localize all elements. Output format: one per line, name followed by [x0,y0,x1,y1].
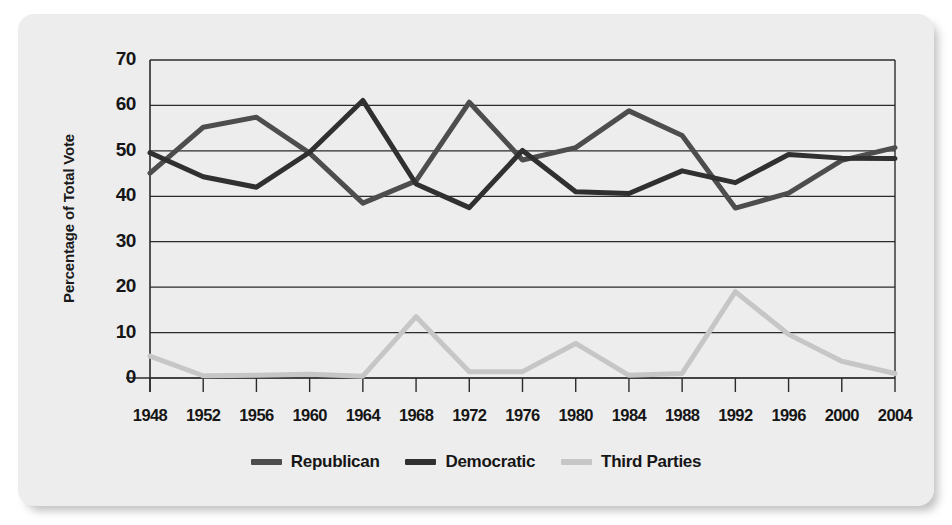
line-chart-svg [18,14,934,506]
y-tick-label-0: 0 [90,366,136,388]
legend-label: Third Parties [601,452,701,472]
x-tick-label-1960: 1960 [280,406,340,425]
legend-item-third-parties[interactable]: Third Parties [561,452,701,472]
axis-lines [126,60,895,392]
legend-label: Republican [291,452,380,472]
y-tick-label-70: 70 [90,48,136,70]
y-tick-label-10: 10 [90,321,136,343]
x-tick-label-2004: 2004 [865,406,925,425]
x-tick-label-1980: 1980 [546,406,606,425]
x-tick-label-1992: 1992 [705,406,765,425]
x-tick-label-1952: 1952 [173,406,233,425]
y-tick-label-40: 40 [90,184,136,206]
x-tick-label-1972: 1972 [439,406,499,425]
y-tick-label-30: 30 [90,230,136,252]
x-tick-label-1964: 1964 [333,406,393,425]
series-line-third-parties [150,292,895,376]
x-tick-label-1984: 1984 [599,406,659,425]
legend-swatch-icon [251,459,282,465]
x-tick-label-1956: 1956 [226,406,286,425]
x-tick-label-1996: 1996 [759,406,819,425]
legend-item-republican[interactable]: Republican [251,452,380,472]
legend-swatch-icon [405,459,436,465]
y-tick-label-50: 50 [90,139,136,161]
series-line-democratic [150,100,895,207]
chart-legend: RepublicanDemocraticThird Parties [18,452,934,472]
x-axis-tick-marks [150,378,895,392]
x-tick-label-1968: 1968 [386,406,446,425]
y-tick-label-60: 60 [90,93,136,115]
x-tick-label-1988: 1988 [652,406,712,425]
data-series-lines [150,100,895,376]
x-tick-label-2000: 2000 [812,406,872,425]
legend-item-democratic[interactable]: Democratic [405,452,535,472]
chart-page: Percentage of Total Vote 010203040506070… [0,0,952,525]
legend-label: Democratic [445,452,535,472]
x-tick-label-1976: 1976 [493,406,553,425]
y-tick-label-20: 20 [90,275,136,297]
x-tick-label-1948: 1948 [120,406,180,425]
figure-card: Percentage of Total Vote 010203040506070… [18,14,934,506]
y-axis-title: Percentage of Total Vote [60,99,77,339]
plot-area-wrapper: Percentage of Total Vote 010203040506070… [18,14,934,506]
legend-swatch-icon [561,459,592,465]
